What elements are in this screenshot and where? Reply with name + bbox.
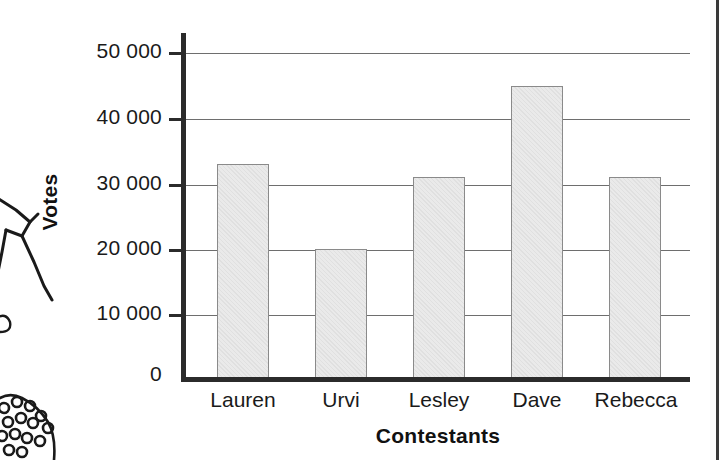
y-tick-label: 10 000 (52, 301, 162, 325)
y-tick-label: 0 (52, 362, 162, 386)
x-tick-label-lauren: Lauren (185, 388, 301, 412)
y-tick-mark-30000 (169, 184, 185, 187)
x-tick-label-urvi: Urvi (289, 388, 393, 412)
y-tick-mark-10000 (169, 314, 185, 317)
x-tick-label-rebecca: Rebecca (575, 388, 697, 412)
y-axis-line (181, 33, 186, 382)
gridline-50000 (186, 53, 690, 54)
x-axis-line (181, 377, 690, 382)
x-tick-label-dave: Dave (489, 388, 585, 412)
page-edge-rule (716, 0, 719, 460)
bar-urvi (315, 249, 367, 379)
x-tick-label-lesley: Lesley (385, 388, 493, 412)
y-tick-mark-40000 (169, 118, 185, 121)
y-tick-label: 30 000 (52, 171, 162, 195)
bar-chart: 50 000 40 000 30 000 20 000 10 000 0 Lau… (0, 0, 723, 460)
y-axis-title: Votes (38, 147, 62, 257)
x-axis-title: Contestants (186, 424, 690, 448)
bar-lauren (217, 164, 269, 379)
gridline-40000 (186, 119, 690, 120)
y-tick-mark-20000 (169, 249, 185, 252)
y-tick-label: 20 000 (52, 236, 162, 260)
bar-dave (511, 86, 563, 379)
page-canvas: 50 000 40 000 30 000 20 000 10 000 0 Lau… (0, 0, 723, 460)
y-tick-label: 50 000 (52, 39, 162, 63)
bar-lesley (413, 177, 465, 379)
y-tick-mark-50000 (169, 52, 185, 55)
y-tick-label: 40 000 (52, 105, 162, 129)
bar-rebecca (609, 177, 661, 379)
